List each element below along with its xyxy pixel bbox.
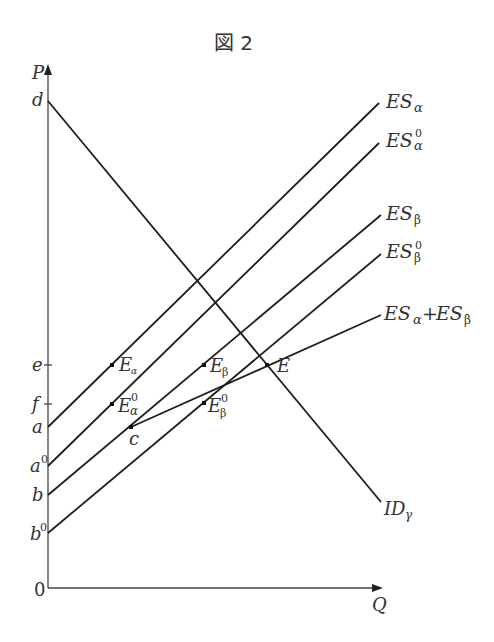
label-e-alpha: E α — [118, 354, 137, 376]
point-e-beta0 — [202, 401, 206, 405]
svg-text:α: α — [413, 312, 422, 327]
axes — [44, 64, 383, 592]
label-e: E — [276, 355, 290, 376]
svg-text:ES: ES — [383, 302, 411, 324]
point-e-beta — [202, 363, 206, 367]
svg-text:α: α — [130, 404, 138, 418]
svg-text:ES: ES — [385, 129, 413, 151]
tick-label-e: e — [32, 354, 43, 375]
label-e-beta: E β — [209, 355, 228, 379]
svg-text:α: α — [131, 366, 137, 376]
label-es-beta: ES β — [385, 202, 421, 227]
tick-label-b0: b 0 — [30, 521, 47, 544]
svg-text:ID: ID — [383, 498, 406, 519]
label-es-alpha: ES α — [385, 90, 423, 115]
label-es-beta0: ES β 0 — [385, 239, 422, 265]
origin-label: 0 — [34, 579, 45, 600]
curve-id-gamma — [48, 101, 381, 502]
label-es-sum: ES α + ES β — [383, 302, 471, 327]
svg-text:ES: ES — [385, 90, 413, 112]
curve-es-beta0 — [48, 254, 381, 533]
svg-text:γ: γ — [405, 508, 413, 522]
tick-label-a0: a 0 — [30, 453, 48, 476]
label-e-beta0: E β 0 — [207, 392, 228, 420]
label-id-gamma: ID γ — [383, 498, 413, 522]
y-axis-label: P — [31, 62, 45, 83]
tick-label-d: d — [32, 89, 44, 110]
svg-text:β: β — [414, 251, 421, 265]
svg-text:ES: ES — [385, 240, 413, 262]
point-e — [265, 363, 269, 367]
x-axis-arrow-icon — [372, 584, 383, 592]
svg-text:a: a — [30, 455, 41, 476]
tick-label-f: f — [30, 393, 42, 414]
svg-text:β: β — [464, 313, 471, 327]
y-axis-arrow-icon — [44, 64, 52, 75]
label-es-alpha0: ES α 0 — [385, 127, 423, 153]
svg-text:0: 0 — [415, 239, 422, 252]
figure-title: 図 2 — [214, 31, 253, 55]
tick-label-a: a — [32, 416, 43, 437]
svg-text:ES: ES — [435, 302, 463, 324]
svg-text:β: β — [222, 366, 228, 379]
point-e-alpha0 — [110, 402, 114, 406]
svg-text:0: 0 — [41, 453, 48, 466]
svg-text:0: 0 — [221, 392, 228, 405]
curve-es-alpha0 — [48, 143, 379, 466]
svg-text:α: α — [414, 100, 423, 115]
svg-text:β: β — [414, 213, 421, 227]
tick-label-b: b — [32, 484, 44, 505]
svg-text:α: α — [414, 138, 423, 153]
market-diagram: 図 2 P Q 0 d e f a a 0 b b 0 ES α ES α 0 — [0, 0, 494, 642]
svg-text:0: 0 — [40, 521, 47, 534]
curve-es-alpha — [48, 103, 379, 427]
x-axis-label: Q — [372, 594, 387, 615]
curve-es-sum — [131, 315, 381, 427]
svg-text:0: 0 — [131, 391, 138, 404]
svg-text:β: β — [220, 407, 226, 420]
label-e-alpha0: E α 0 — [117, 391, 138, 418]
curves — [48, 101, 381, 533]
label-c: c — [129, 428, 139, 449]
svg-text:0: 0 — [415, 127, 422, 140]
point-e-alpha — [110, 363, 114, 367]
svg-text:ES: ES — [385, 202, 413, 224]
